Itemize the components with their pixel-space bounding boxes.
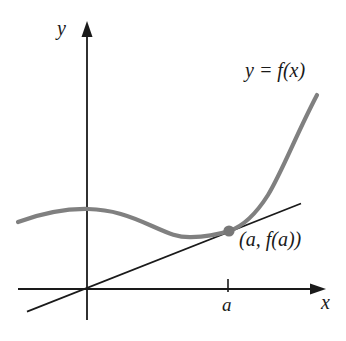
y-axis-arrowhead (82, 21, 93, 37)
tangent-line (27, 204, 301, 312)
x-tick-label-a: a (222, 295, 232, 314)
y-axis-label: y (57, 18, 66, 38)
tangency-point-label: (a, f(a)) (239, 229, 301, 249)
figure-canvas (0, 0, 346, 341)
tangent-line-figure: y x a y = f(x) (a, f(a)) (0, 0, 346, 341)
function-curve (18, 95, 317, 237)
tangency-point-marker (223, 225, 234, 236)
function-equation-label: y = f(x) (245, 60, 305, 80)
x-axis-label: x (321, 292, 330, 312)
